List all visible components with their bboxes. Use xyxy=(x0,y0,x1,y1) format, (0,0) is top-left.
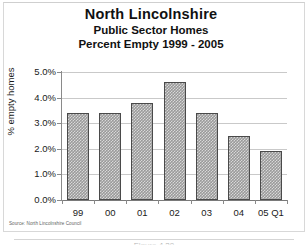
y-axis-tick xyxy=(57,149,62,150)
figure-caption-clipped: Figure 4.29 xyxy=(0,239,308,251)
caption-text: Figure 4.29 xyxy=(0,241,308,250)
bar xyxy=(228,136,250,200)
x-axis-tick xyxy=(62,200,63,204)
figure-container: North Lincolnshire Public Sector Homes P… xyxy=(0,0,308,251)
bar xyxy=(164,82,186,200)
y-axis-tick xyxy=(57,123,62,124)
bar xyxy=(196,113,218,200)
y-axis-tick-label: 1.0% xyxy=(16,169,56,179)
bar xyxy=(67,113,89,200)
x-axis-tick xyxy=(158,200,159,204)
x-axis-tick xyxy=(126,200,127,204)
source-note: Source: North Lincolnshire Council xyxy=(9,221,81,227)
y-axis-tick-label: 4.0% xyxy=(16,93,56,103)
y-axis-tick xyxy=(57,72,62,73)
bar xyxy=(260,151,282,200)
x-axis-tick xyxy=(191,200,192,204)
y-axis-tick xyxy=(57,98,62,99)
y-axis-tick-label: 3.0% xyxy=(16,118,56,128)
x-axis-tick xyxy=(94,200,95,204)
x-axis-tick xyxy=(255,200,256,204)
x-axis-tick-label: 05 Q1 xyxy=(250,207,292,218)
y-axis-tick-label: 0.0% xyxy=(16,195,56,205)
bar xyxy=(99,113,121,200)
y-axis-tick-label: 2.0% xyxy=(16,144,56,154)
bar xyxy=(131,103,153,200)
x-axis-tick xyxy=(287,200,288,204)
y-axis-tick-label: 5.0% xyxy=(16,67,56,77)
y-axis-tick xyxy=(57,174,62,175)
plot-area xyxy=(62,72,287,200)
gridline xyxy=(62,72,287,73)
y-axis-labels: 0.0%1.0%2.0%3.0%4.0%5.0% xyxy=(10,0,56,251)
caption-rule xyxy=(14,239,294,240)
x-axis-tick xyxy=(223,200,224,204)
